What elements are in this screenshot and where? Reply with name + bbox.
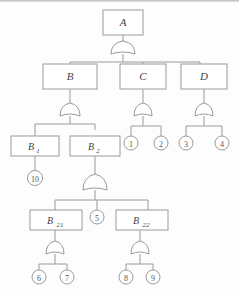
box-a-label: A — [119, 16, 127, 28]
box-b1-label: B — [28, 141, 34, 152]
or-gate-d[interactable] — [195, 103, 213, 116]
or-gate-b22[interactable] — [131, 241, 149, 254]
or-gate-c[interactable] — [134, 103, 152, 116]
event-circle-10-label: 10 — [31, 175, 39, 184]
or-gate-b21[interactable] — [46, 241, 64, 254]
event-circle-5-label: 5 — [95, 214, 99, 223]
or-gate-b2[interactable] — [83, 174, 107, 190]
event-circle-6-label: 6 — [37, 274, 41, 283]
or-gate-b[interactable] — [60, 103, 80, 116]
event-circle-1-label: 1 — [129, 140, 133, 149]
box-b1[interactable] — [11, 136, 59, 156]
box-b2-subscript: 2 — [96, 147, 100, 155]
event-circle-8-label: 8 — [124, 274, 128, 283]
box-b22-subscript: 22 — [143, 221, 151, 229]
event-circle-9-label: 9 — [151, 274, 155, 283]
box-b22-label: B — [133, 215, 139, 226]
box-b1-subscript: 1 — [36, 147, 40, 155]
box-b-label: B — [67, 70, 74, 82]
or-gate-a[interactable] — [111, 41, 135, 54]
fault-tree-canvas: A B C D B 1 B 2 B 21 B 22 1 2 — [0, 0, 239, 294]
event-circle-2-label: 2 — [159, 140, 163, 149]
event-circle-3-label: 3 — [184, 140, 188, 149]
box-d-label: D — [199, 70, 208, 82]
box-b2[interactable] — [70, 136, 120, 156]
fault-tree-diagram: A B C D B 1 B 2 B 21 B 22 1 2 — [0, 0, 239, 294]
box-b21-label: B — [47, 215, 53, 226]
event-circle-7-label: 7 — [65, 274, 69, 283]
box-c-label: C — [139, 70, 147, 82]
event-circle-4-label: 4 — [220, 140, 224, 149]
box-b21-subscript: 21 — [57, 221, 64, 229]
box-b2-label: B — [88, 141, 94, 152]
